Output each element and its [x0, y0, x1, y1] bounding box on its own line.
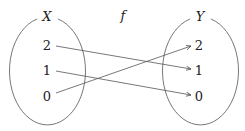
domain-element-2: 2 — [43, 38, 51, 53]
domain-element-1: 1 — [43, 63, 51, 78]
arrow-0-to-2 — [56, 46, 191, 93]
codomain-label: Y — [196, 9, 206, 24]
codomain-element-1: 1 — [195, 63, 203, 78]
arrow-1-to-0 — [56, 71, 191, 95]
arrow-2-to-1 — [56, 46, 191, 69]
codomain-element-0: 0 — [195, 89, 203, 104]
domain-label: X — [41, 9, 52, 24]
function-label: f — [120, 8, 128, 23]
function-mapping-diagram: X Y f 2 1 0 2 1 0 — [0, 0, 245, 131]
codomain-element-2: 2 — [195, 38, 203, 53]
domain-element-0: 0 — [43, 89, 51, 104]
